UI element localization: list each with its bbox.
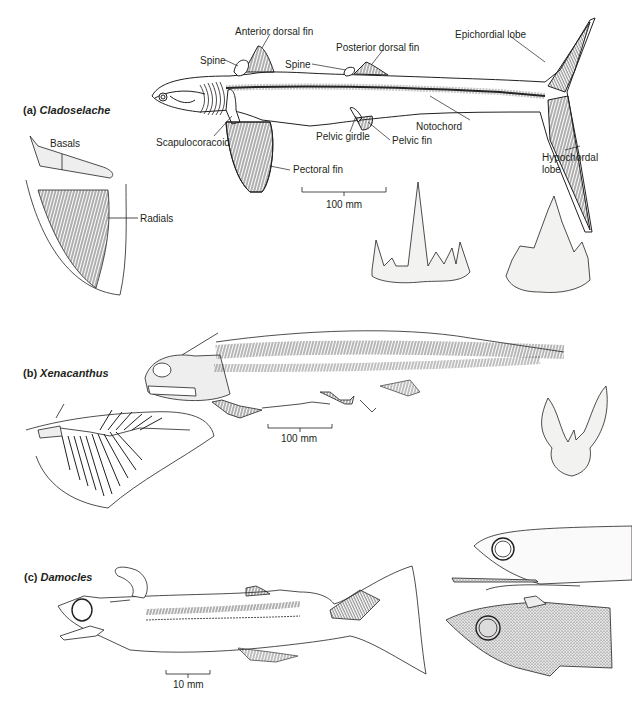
scale-bar-b (268, 424, 332, 432)
panel-genus-c: Damocles (41, 571, 93, 583)
damocles-illustration (58, 566, 426, 674)
scale-label-a: 100 mm (326, 199, 362, 210)
figure-root: Anterior dorsal fin Spine Spine Posterio… (0, 0, 632, 704)
label-epichordial-lobe: Epichordial lobe (455, 29, 526, 40)
label-hypochordal-lobe-2: lobe (542, 164, 561, 175)
panel-letter-c: (c) (24, 571, 37, 583)
panel-genus-a: Cladoselache (40, 104, 111, 116)
panel-letter-a: (a) (23, 104, 36, 116)
damocles-head-lower (446, 596, 612, 676)
panel-genus-b: Xenacanthus (40, 367, 108, 379)
panel-title-c: (c) Damocles (24, 571, 93, 583)
xenacanthus-illustration (145, 331, 564, 418)
cladoselache-teeth (372, 182, 590, 293)
panel-title-b: (b) Xenacanthus (23, 367, 109, 379)
label-hypochordal-lobe-1: Hypochordal (542, 152, 598, 163)
panel-letter-b: (b) (23, 367, 37, 379)
label-basals: Basals (50, 138, 80, 149)
panel-title-a: (a) Cladoselache (23, 104, 110, 116)
label-pectoral-fin: Pectoral fin (293, 164, 343, 175)
scale-bar-a (302, 187, 386, 196)
label-pelvic-girdle: Pelvic girdle (316, 131, 370, 142)
label-notochord: Notochord (416, 121, 462, 132)
damocles-head-upper (452, 526, 632, 590)
label-posterior-dorsal-fin: Posterior dorsal fin (336, 42, 419, 53)
label-pelvic-fin: Pelvic fin (392, 135, 432, 146)
label-radials: Radials (140, 213, 173, 224)
label-spine-2: Spine (285, 59, 311, 70)
label-anterior-dorsal-fin: Anterior dorsal fin (235, 26, 313, 37)
scale-label-b: 100 mm (281, 433, 317, 444)
pectoral-fin-detail (26, 136, 138, 295)
xenacanthus-tooth (542, 386, 608, 476)
label-spine-1: Spine (200, 55, 226, 66)
scale-label-c: 10 mm (173, 679, 204, 690)
xenacanthus-fin-detail (26, 404, 214, 508)
scale-bar-c (166, 670, 210, 678)
label-scapulocoracoid: Scapulocoracoid (156, 137, 230, 148)
